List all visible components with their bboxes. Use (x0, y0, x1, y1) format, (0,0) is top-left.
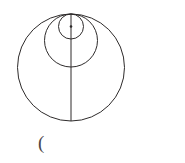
small-circle-center-dot (70, 25, 73, 28)
figure-canvas: ( (0, 0, 185, 163)
open-paren-label: ( (38, 133, 44, 152)
tangent-circles-diagram (0, 0, 185, 163)
